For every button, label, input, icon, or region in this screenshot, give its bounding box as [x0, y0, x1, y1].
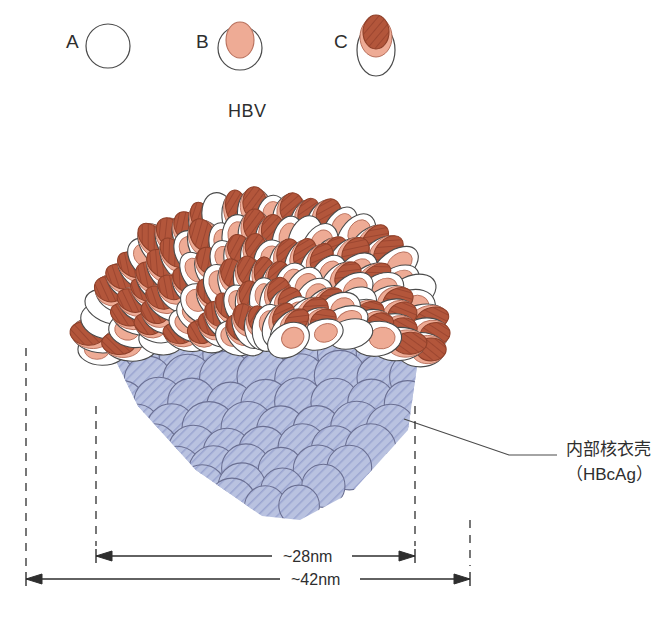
legend-label-a: A [66, 31, 79, 53]
capsid-annotation-line1: 内部核衣壳 [566, 437, 653, 462]
legend-item-a [86, 24, 130, 68]
empty-circle-icon [86, 24, 130, 68]
salmon-core-icon [226, 22, 254, 58]
hbv-diagram-svg [0, 0, 660, 621]
dark-cap-icon [363, 15, 389, 49]
figure-canvas [0, 0, 660, 621]
legend-label-c: C [334, 31, 348, 53]
capsid-annotation: 内部核衣壳 （HBcAg） [566, 437, 653, 487]
legend-label-b: B [196, 31, 209, 53]
capsid-annotation-line2: （HBcAg） [566, 462, 653, 487]
dimension-outer-label: ~42nm [291, 571, 340, 589]
page-title: HBV [228, 101, 267, 122]
dimension-inner-label: ~28nm [283, 548, 332, 566]
